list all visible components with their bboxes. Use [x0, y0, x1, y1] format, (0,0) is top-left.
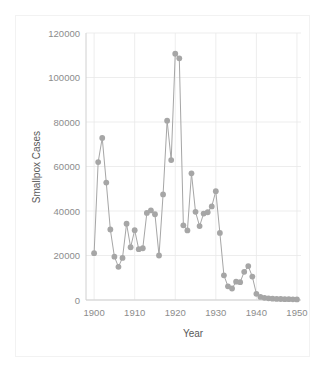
x-tick-label: 1910 — [124, 307, 145, 318]
gridlines — [86, 33, 301, 300]
data-point-marker — [168, 157, 174, 163]
y-tick-label: 100000 — [48, 72, 80, 83]
x-tick-label: 1940 — [246, 307, 267, 318]
data-point-marker — [132, 227, 138, 233]
data-point-marker — [185, 228, 191, 234]
series-polyline — [94, 54, 297, 300]
data-point-marker — [156, 253, 162, 259]
data-point-marker — [197, 223, 203, 229]
data-point-marker — [124, 221, 130, 227]
data-point-marker — [241, 269, 247, 275]
data-point-marker — [237, 279, 243, 285]
data-point-marker — [152, 211, 158, 217]
y-tick-label: 20000 — [54, 250, 80, 261]
data-point-marker — [95, 159, 101, 165]
y-tick-label: 120000 — [48, 28, 80, 39]
x-tick-label: 1950 — [286, 307, 307, 318]
data-point-marker — [172, 51, 178, 57]
data-point-marker — [103, 180, 109, 186]
y-tick-label: 80000 — [54, 117, 80, 128]
data-point-marker — [221, 272, 227, 278]
data-point-marker — [193, 209, 199, 215]
data-point-marker — [209, 204, 215, 210]
data-point-marker — [249, 274, 255, 280]
data-point-marker — [128, 244, 134, 250]
x-tick-label: 1900 — [84, 307, 105, 318]
y-tick-label: 0 — [75, 295, 80, 306]
data-point-marker — [245, 263, 251, 269]
data-point-marker — [116, 264, 122, 270]
data-point-marker — [294, 296, 300, 302]
data-point-marker — [112, 254, 118, 260]
x-tick-label: 1920 — [165, 307, 186, 318]
x-tick-labels: 190019101920193019401950 — [84, 307, 308, 318]
data-point-marker — [213, 188, 219, 194]
data-point-marker — [176, 55, 182, 61]
data-point-marker — [205, 209, 211, 215]
data-point-marker — [107, 227, 113, 233]
data-point-marker — [160, 191, 166, 197]
data-point-marker — [120, 255, 126, 261]
data-point-marker — [164, 118, 170, 124]
data-series — [91, 51, 300, 302]
x-tick-label: 1930 — [205, 307, 226, 318]
y-tick-label: 60000 — [54, 161, 80, 172]
data-point-marker — [217, 230, 223, 236]
data-point-marker — [91, 250, 97, 256]
smallpox-cases-line-chart: 020000400006000080000100000120000 190019… — [0, 0, 325, 372]
y-axis-title: Smallpox Cases — [31, 131, 42, 203]
data-point-marker — [229, 286, 235, 292]
y-tick-label: 40000 — [54, 206, 80, 217]
y-tick-labels: 020000400006000080000100000120000 — [48, 28, 80, 306]
data-point-marker — [99, 135, 105, 141]
data-point-marker — [180, 222, 186, 228]
data-point-marker — [189, 170, 195, 176]
x-axis-title: Year — [183, 328, 204, 339]
data-point-marker — [140, 245, 146, 251]
